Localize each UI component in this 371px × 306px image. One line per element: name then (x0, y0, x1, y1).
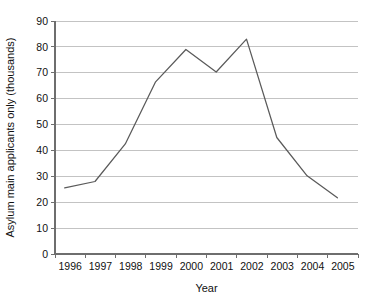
y-tick-label: 40 (36, 144, 48, 156)
x-tick-label: 2004 (301, 260, 325, 272)
x-tick-label: 1998 (119, 260, 143, 272)
chart-container: 0102030405060708090 19961997199819992000… (0, 0, 371, 306)
y-tick-label: 10 (36, 222, 48, 234)
y-tick-label: 80 (36, 41, 48, 53)
x-tick-label: 1997 (89, 260, 113, 272)
y-axis (51, 21, 55, 254)
x-tick-label: 2001 (210, 260, 234, 272)
x-tick-label: 2005 (331, 260, 355, 272)
y-tick-label: 60 (36, 92, 48, 104)
x-tick-label: 1996 (58, 260, 82, 272)
x-tick-labels: 1996199719981999200020012002200320042005 (58, 260, 354, 272)
x-axis (55, 254, 358, 258)
y-tick-labels: 0102030405060708090 (36, 15, 48, 260)
gridlines-group (55, 21, 358, 228)
x-tick-label: 2003 (271, 260, 295, 272)
x-tick-label: 2002 (240, 260, 264, 272)
y-tick-label: 0 (42, 248, 48, 260)
data-series-group (65, 39, 338, 198)
x-tick-label: 2000 (180, 260, 204, 272)
line-chart: 0102030405060708090 19961997199819992000… (0, 0, 371, 306)
y-tick-label: 50 (36, 118, 48, 130)
y-axis-title: Asylum main applicants only (thousands) (4, 38, 16, 238)
y-tick-label: 70 (36, 66, 48, 78)
x-axis-title: Year (195, 282, 218, 294)
y-tick-label: 30 (36, 170, 48, 182)
y-tick-label: 90 (36, 15, 48, 27)
data-line-asylum-main-applicants (65, 39, 338, 198)
y-tick-label: 20 (36, 196, 48, 208)
x-tick-label: 1999 (149, 260, 173, 272)
